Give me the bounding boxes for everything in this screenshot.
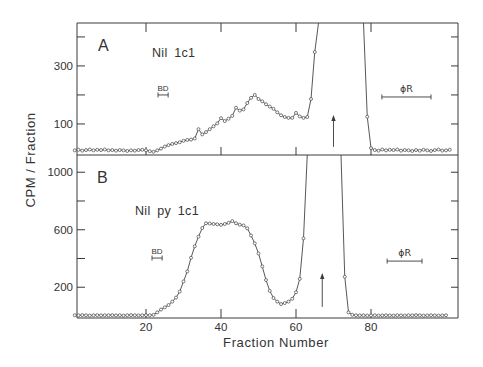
data-point bbox=[381, 314, 384, 317]
data-point bbox=[118, 149, 121, 152]
series-line-panel-a bbox=[75, 23, 450, 152]
y-axis-label: CPM / Fraction bbox=[23, 112, 38, 207]
data-point bbox=[216, 122, 219, 125]
data-point bbox=[392, 314, 395, 317]
data-point bbox=[261, 265, 264, 268]
data-point bbox=[388, 148, 391, 151]
data-point bbox=[186, 270, 189, 273]
data-point bbox=[227, 117, 230, 120]
data-point bbox=[201, 227, 204, 230]
data-point bbox=[208, 222, 211, 225]
data-point bbox=[373, 149, 376, 152]
y-tick-label: 300 bbox=[54, 60, 73, 72]
data-point bbox=[445, 149, 448, 152]
data-point bbox=[122, 149, 125, 152]
data-point bbox=[156, 149, 159, 152]
data-point bbox=[370, 314, 373, 317]
data-point bbox=[445, 314, 448, 317]
data-point bbox=[411, 149, 414, 152]
data-point bbox=[306, 116, 309, 119]
data-point bbox=[280, 303, 283, 306]
series-line-panel-b bbox=[75, 155, 446, 316]
data-point bbox=[242, 224, 245, 227]
data-point bbox=[422, 314, 425, 317]
data-point bbox=[235, 222, 238, 225]
data-point bbox=[205, 222, 208, 225]
data-point bbox=[81, 149, 84, 152]
data-point bbox=[73, 314, 76, 317]
data-point bbox=[392, 149, 395, 152]
data-point bbox=[418, 149, 421, 152]
fraction-profile-chart: 20406080100300BDϕR2006001000BDϕR A Nil 1… bbox=[0, 0, 483, 367]
data-point bbox=[160, 308, 163, 311]
x-tick-label: 60 bbox=[290, 321, 303, 333]
data-point bbox=[96, 148, 99, 151]
data-point bbox=[377, 149, 380, 152]
data-point bbox=[343, 275, 346, 278]
data-point bbox=[163, 145, 166, 148]
data-point bbox=[396, 148, 399, 151]
data-point bbox=[268, 289, 271, 292]
data-point bbox=[291, 116, 294, 119]
data-point bbox=[411, 314, 414, 317]
data-point bbox=[276, 111, 279, 114]
data-point bbox=[73, 149, 76, 152]
phi-r-marker-label: ϕR bbox=[398, 247, 411, 258]
data-point bbox=[85, 149, 88, 152]
data-point bbox=[141, 314, 144, 317]
data-point bbox=[186, 138, 189, 141]
data-point bbox=[130, 149, 133, 152]
data-point bbox=[291, 297, 294, 300]
data-point bbox=[351, 313, 354, 316]
data-point bbox=[92, 314, 95, 317]
data-point bbox=[396, 314, 399, 317]
data-point bbox=[141, 148, 144, 151]
data-point bbox=[298, 115, 301, 118]
data-point bbox=[148, 314, 151, 317]
data-point bbox=[223, 222, 226, 225]
data-point bbox=[242, 108, 245, 111]
data-point bbox=[430, 149, 433, 152]
data-point bbox=[88, 148, 91, 151]
data-point bbox=[190, 256, 193, 259]
data-point bbox=[126, 149, 129, 152]
data-point bbox=[381, 148, 384, 151]
data-point bbox=[415, 314, 418, 317]
figure: 20406080100300BDϕR2006001000BDϕR A Nil 1… bbox=[0, 0, 483, 367]
data-point bbox=[415, 149, 418, 152]
data-point bbox=[261, 100, 264, 103]
x-tick-label: 20 bbox=[140, 321, 153, 333]
data-point bbox=[385, 314, 388, 317]
data-point bbox=[182, 280, 185, 283]
data-point bbox=[212, 125, 215, 128]
data-point bbox=[175, 296, 178, 299]
data-point bbox=[178, 290, 181, 293]
data-point bbox=[426, 149, 429, 152]
data-point bbox=[238, 109, 241, 112]
phi-r-marker-label: ϕR bbox=[400, 83, 413, 94]
data-point bbox=[373, 314, 376, 317]
data-point bbox=[133, 149, 136, 152]
data-point bbox=[107, 149, 110, 152]
data-point bbox=[370, 147, 373, 150]
data-point bbox=[193, 245, 196, 248]
data-point bbox=[100, 314, 103, 317]
data-point bbox=[366, 115, 369, 118]
data-point bbox=[257, 252, 260, 255]
data-point bbox=[441, 149, 444, 152]
data-point bbox=[238, 223, 241, 226]
data-point bbox=[201, 133, 204, 136]
data-point bbox=[171, 300, 174, 303]
bd-marker-label: BD bbox=[158, 84, 169, 93]
data-point bbox=[441, 314, 444, 317]
data-point bbox=[178, 141, 181, 144]
arrow-up-icon bbox=[320, 273, 324, 279]
data-point bbox=[437, 148, 440, 151]
data-point bbox=[302, 116, 305, 119]
data-point bbox=[433, 149, 436, 152]
x-tick-label: 80 bbox=[365, 321, 378, 333]
data-point bbox=[96, 314, 99, 317]
arrow-up-icon bbox=[331, 115, 335, 121]
data-point bbox=[272, 107, 275, 110]
data-point bbox=[111, 149, 114, 152]
